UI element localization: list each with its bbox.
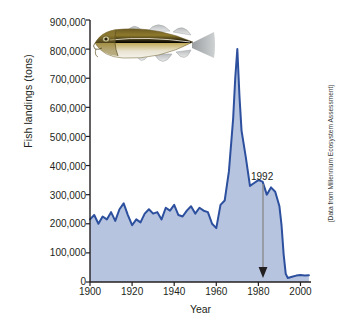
fish-icon: [88, 14, 216, 76]
y-tick-label: 900,000: [50, 17, 86, 28]
x-tick-label: 1980: [247, 286, 269, 297]
x-axis-title: Year: [90, 303, 311, 315]
y-tick-label: 600,000: [50, 103, 86, 114]
x-tick-label: 1960: [205, 286, 227, 297]
x-tick-label: 1940: [163, 286, 185, 297]
x-tick-label: 2000: [289, 286, 311, 297]
annotation-1992-label: 1992: [251, 171, 273, 182]
y-tick-label: 700,000: [50, 74, 86, 85]
annotation-1992-arrow: [256, 184, 270, 280]
source-note: (Data from Millennium Ecosystem Assessme…: [327, 79, 334, 229]
y-tick-label: 800,000: [50, 46, 86, 57]
y-axis-tick-labels: 0 100,000 200,000 300,000 400,000 500,00…: [8, 0, 86, 329]
y-tick-label: 500,000: [50, 132, 86, 143]
y-tick-label: 300,000: [50, 190, 86, 201]
atlantic-cod-illustration: [88, 14, 216, 76]
x-tick-label: 1920: [121, 286, 143, 297]
fish-landings-chart: Fish landings (tons) 0 100,000 200,000 3…: [0, 0, 342, 329]
x-tick-label: 1900: [79, 286, 101, 297]
x-axis-tick-labels: 190019201940196019802000: [90, 286, 311, 302]
y-tick-label: 0: [80, 276, 86, 287]
y-tick-label: 200,000: [50, 218, 86, 229]
y-tick-label: 400,000: [50, 161, 86, 172]
area-fill: [90, 49, 309, 282]
y-tick-label: 100,000: [50, 247, 86, 258]
fish-tail: [192, 32, 215, 58]
